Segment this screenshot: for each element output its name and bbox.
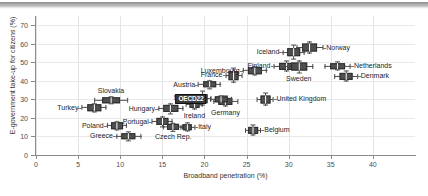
data-point-label: Luxembourg: [201, 67, 240, 75]
marker-cap-top: [160, 116, 165, 117]
y-axis-title: E-government take-up for citizens (%): [9, 6, 16, 146]
marker-cap-top: [263, 93, 268, 94]
data-marker[interactable]: [245, 124, 261, 135]
marker-cap-left: [158, 106, 159, 111]
chart-figure: 0510152025303540010203040506070 TurkeySl…: [0, 0, 428, 196]
label-leader-line: [271, 66, 274, 67]
data-point-label: Iceland: [257, 48, 280, 56]
marker-cap-bottom: [307, 53, 312, 54]
data-point-label: Sweden: [286, 75, 311, 83]
label-leader-line: [155, 109, 158, 110]
gridline-vertical: [373, 16, 374, 155]
marker-cap-left: [116, 134, 117, 139]
marker-cap-bottom: [251, 135, 256, 136]
marker-median: [173, 124, 174, 130]
x-tick-label: 10: [116, 161, 124, 168]
marker-cap-left: [257, 97, 258, 102]
marker-cap-bottom: [291, 59, 296, 60]
marker-cap-bottom: [168, 113, 173, 114]
x-tick-label: 35: [327, 161, 335, 168]
marker-cap-bottom: [296, 72, 301, 73]
x-tick: [120, 155, 121, 159]
marker-median: [209, 81, 210, 87]
marker-cap-top: [168, 103, 173, 104]
y-axis-line: [35, 16, 36, 156]
marker-cap-left: [163, 125, 164, 130]
label-leader-line: [195, 85, 198, 86]
x-tick-label: 20: [201, 161, 209, 168]
label-leader-line: [358, 76, 361, 77]
x-tick: [331, 155, 332, 159]
marker-cap-right: [140, 134, 141, 139]
y-tick: [31, 155, 35, 156]
y-tick: [31, 62, 35, 63]
marker-cap-top: [343, 71, 348, 72]
gridline-vertical: [331, 16, 332, 155]
data-point-label: Greece: [90, 132, 113, 140]
marker-median: [116, 123, 117, 129]
marker-cap-right: [106, 105, 107, 110]
marker-cap-bottom: [263, 105, 268, 106]
data-marker[interactable]: [81, 103, 106, 112]
x-tick: [36, 155, 37, 159]
y-tick: [31, 99, 35, 100]
marker-median: [187, 124, 188, 130]
y-tick: [31, 25, 35, 26]
data-point-label: Czech Rep.: [155, 133, 192, 141]
marker-cap-top: [200, 91, 205, 92]
marker-cap-left: [243, 68, 244, 73]
marker-cap-bottom: [343, 81, 348, 82]
data-point-label: Denmark: [361, 72, 389, 80]
data-marker[interactable]: [180, 123, 195, 132]
data-marker[interactable]: [257, 93, 274, 106]
marker-cap-left: [296, 45, 297, 50]
marker-cap-left: [274, 64, 275, 69]
x-tick-label: 30: [285, 161, 293, 168]
label-leader-line: [104, 126, 107, 127]
gridline-vertical: [36, 16, 37, 155]
top-bar-shadow: [0, 7, 428, 9]
data-point-label: Slovakia: [98, 87, 124, 95]
gridline-horizontal: [36, 118, 415, 119]
data-marker[interactable]: [284, 60, 313, 73]
data-point-label: United Kingdom: [277, 95, 327, 103]
marker-cap-left: [245, 127, 246, 132]
marker-median: [298, 63, 299, 71]
x-tick: [373, 155, 374, 159]
marker-cap-left: [180, 125, 181, 130]
marker-cap-bottom: [192, 109, 197, 110]
data-marker[interactable]: [198, 80, 221, 89]
gridline-horizontal: [36, 44, 415, 45]
data-marker[interactable]: [116, 132, 141, 141]
marker-cap-right: [182, 106, 183, 111]
data-marker[interactable]: [94, 97, 128, 104]
y-tick-label: 0: [12, 152, 28, 159]
label-leader-line: [261, 130, 264, 131]
marker-median: [110, 97, 111, 103]
marker-cap-bottom: [92, 111, 97, 112]
marker-cap-left: [324, 64, 325, 69]
x-tick-label: 5: [76, 161, 80, 168]
data-point-label: Germany: [211, 109, 240, 117]
data-marker[interactable]: [296, 41, 323, 54]
marker-cap-bottom: [200, 105, 205, 106]
marker-cap-bottom: [171, 130, 176, 131]
marker-cap-top: [251, 124, 256, 125]
data-point-label: Finland: [248, 62, 271, 70]
marker-cap-top: [296, 60, 301, 61]
data-point-label: Turkey: [57, 104, 78, 112]
marker-cap-left: [81, 105, 82, 110]
data-marker[interactable]: [210, 96, 232, 103]
x-tick: [247, 155, 248, 159]
label-leader-line: [113, 136, 116, 137]
data-marker[interactable]: [334, 71, 358, 82]
data-point-label: Italy: [198, 123, 211, 131]
data-marker[interactable]: [324, 61, 351, 70]
data-marker[interactable]: [158, 103, 183, 114]
marker-cap-bottom: [207, 88, 212, 89]
x-tick-label: 15: [158, 161, 166, 168]
marker-cap-left: [210, 97, 211, 102]
label-leader-line: [240, 71, 243, 72]
label-leader-line: [274, 99, 277, 100]
y-tick: [31, 44, 35, 45]
